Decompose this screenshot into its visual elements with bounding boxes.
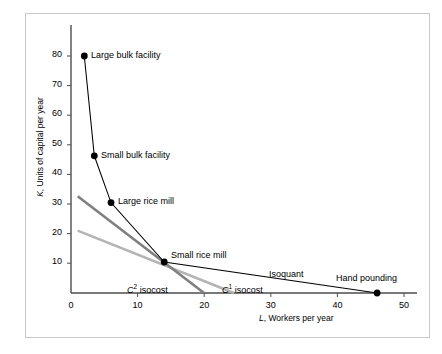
x-axis-title: L, Workers per year xyxy=(259,313,334,323)
x-tick-label-50: 50 xyxy=(393,300,415,310)
x-axis-title-text: , Workers per year xyxy=(264,313,334,323)
x-tick-label-30: 30 xyxy=(260,300,282,310)
y-tick-label-20: 20 xyxy=(40,227,62,237)
label-large-rice-mill: Large rice mill xyxy=(118,196,174,206)
isoquant-label: Isoquant xyxy=(269,269,304,279)
isoquant-line xyxy=(84,56,377,293)
y-axis-title-symbol: K xyxy=(35,191,45,197)
y-tick-label-70: 70 xyxy=(40,79,62,89)
y-tick-label-60: 60 xyxy=(40,108,62,118)
x-tick-label-10: 10 xyxy=(127,300,149,310)
point-small-bulk-facility[interactable] xyxy=(91,152,98,159)
label-small-rice-mill: Small rice mill xyxy=(171,250,227,260)
y-tick-label-50: 50 xyxy=(40,138,62,148)
point-large-rice-mill[interactable] xyxy=(108,199,115,206)
y-tick-label-30: 30 xyxy=(40,197,62,207)
y-tick-label-10: 10 xyxy=(40,256,62,266)
c2-isocost-line xyxy=(78,196,204,293)
figure-frame: K, Units of capital per year L, Workers … xyxy=(25,13,430,338)
c1-isocost-label: C1 isocost xyxy=(222,283,263,295)
label-large-bulk-facility: Large bulk facility xyxy=(91,50,161,60)
x-tick-label-40: 40 xyxy=(326,300,348,310)
x-tick-label-20: 20 xyxy=(193,300,215,310)
label-hand-pounding: Hand pounding xyxy=(336,273,397,283)
c2-text: isocost xyxy=(137,285,168,295)
label-small-bulk-facility: Small bulk facility xyxy=(101,150,170,160)
point-small-rice-mill[interactable] xyxy=(161,259,168,266)
x-tick-label-0: 0 xyxy=(60,300,82,310)
point-hand-pounding[interactable] xyxy=(374,290,381,297)
y-tick-label-80: 80 xyxy=(40,49,62,59)
y-tick-label-40: 40 xyxy=(40,167,62,177)
c1-text: isocost xyxy=(232,285,263,295)
point-large-bulk-facility[interactable] xyxy=(81,53,88,60)
c2-isocost-label: C2 isocost xyxy=(127,283,168,295)
